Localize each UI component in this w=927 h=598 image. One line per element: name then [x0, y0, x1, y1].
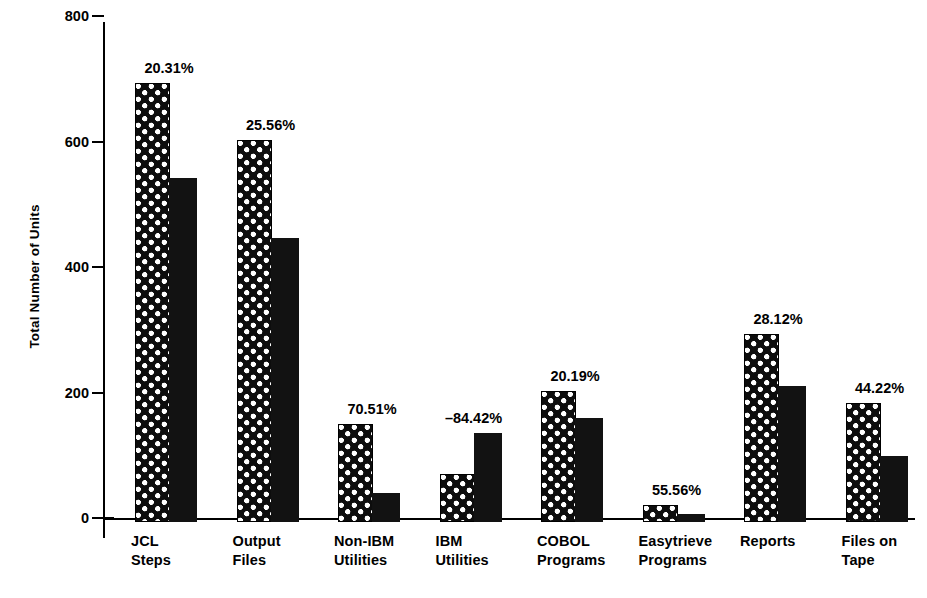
y-tick-mark — [92, 141, 104, 143]
x-category-label: Files onTape — [842, 532, 927, 570]
bar-group: –84.42%IBMUtilities — [440, 20, 544, 522]
bar-before — [846, 403, 881, 522]
x-category-label-line1: Reports — [740, 533, 796, 549]
x-category-label: Non-IBMUtilities — [334, 532, 438, 570]
y-tick-mark — [92, 517, 114, 519]
y-axis-title: Total Number of Units — [27, 147, 42, 407]
x-category-label: EasytrievePrograms — [639, 532, 743, 570]
bar-after — [169, 178, 197, 522]
bar-before — [541, 391, 576, 522]
bar-after — [677, 514, 705, 522]
x-category-label-line2: Programs — [639, 551, 743, 570]
bar-after — [575, 418, 603, 522]
bar-group: 44.22%Files onTape — [846, 20, 927, 522]
x-category-label-line1: Non-IBM — [334, 533, 394, 549]
bar-percent-label: –84.42% — [422, 410, 526, 426]
bar-percent-label: 28.12% — [726, 311, 830, 327]
bar-before — [338, 424, 373, 522]
x-category-label-line2: Steps — [131, 551, 235, 570]
x-category-label-line1: JCL — [131, 533, 159, 549]
bar-before — [440, 474, 475, 522]
x-category-label: IBMUtilities — [436, 532, 540, 570]
bar-percent-label: 70.51% — [320, 401, 424, 417]
x-category-label-line1: Files on — [842, 533, 898, 549]
bar-group: 55.56%EasytrievePrograms — [643, 20, 747, 522]
bar-after — [778, 386, 806, 522]
bar-group: 20.31%JCLSteps — [135, 20, 239, 522]
bar-percent-label: 44.22% — [828, 380, 927, 396]
x-category-label-line2: Files — [233, 551, 337, 570]
bar-after — [474, 433, 502, 522]
bar-after — [271, 238, 299, 522]
bar-before — [135, 83, 170, 522]
x-category-label: Reports — [740, 532, 844, 551]
x-category-label: JCLSteps — [131, 532, 235, 570]
bar-group: 28.12%Reports — [744, 20, 848, 522]
y-tick-label: 0 — [81, 510, 89, 526]
x-category-label-line1: COBOL — [537, 533, 590, 549]
bar-before — [643, 505, 678, 522]
y-tick-mark — [92, 15, 104, 17]
bar-percent-label: 20.31% — [117, 60, 221, 76]
bar-group: 25.56%OutputFiles — [237, 20, 341, 522]
x-category-label-line1: Easytrieve — [639, 533, 713, 549]
bar-before — [744, 334, 779, 522]
bar-after — [372, 493, 400, 522]
y-tick-mark — [92, 392, 104, 394]
plot-area: 0200400600800 20.31%JCLSteps25.56%Output… — [103, 16, 915, 522]
y-axis-line — [103, 22, 105, 538]
bar-percent-label: 20.19% — [523, 368, 627, 384]
bar-chart: Total Number of Units 0200400600800 20.3… — [0, 0, 927, 598]
x-category-label-line1: IBM — [436, 533, 463, 549]
bar-percent-label: 25.56% — [219, 117, 323, 133]
x-category-label-line1: Output — [233, 533, 281, 549]
bar-group: 20.19%COBOLPrograms — [541, 20, 645, 522]
x-category-label-line2: Utilities — [334, 551, 438, 570]
y-tick-label: 400 — [65, 259, 89, 275]
y-tick-label: 800 — [65, 8, 89, 24]
x-category-label: OutputFiles — [233, 532, 337, 570]
x-category-label-line2: Tape — [842, 551, 927, 570]
y-tick-mark — [92, 266, 104, 268]
x-category-label: COBOLPrograms — [537, 532, 641, 570]
x-category-label-line2: Programs — [537, 551, 641, 570]
bar-after — [880, 456, 908, 523]
bar-before — [237, 140, 272, 522]
y-tick-label: 200 — [65, 385, 89, 401]
y-tick-label: 600 — [65, 134, 89, 150]
bar-percent-label: 55.56% — [625, 482, 729, 498]
x-category-label-line2: Utilities — [436, 551, 540, 570]
bar-group: 70.51%Non-IBMUtilities — [338, 20, 442, 522]
